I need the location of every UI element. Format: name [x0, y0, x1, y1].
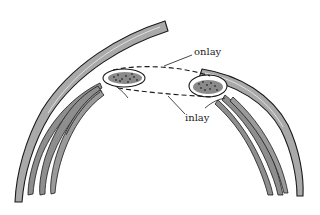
onlay-label: onlay — [194, 47, 221, 57]
left-graft-oval — [103, 69, 145, 87]
right-graft-oval — [189, 75, 227, 97]
anatomical-diagram — [0, 0, 320, 215]
inlay-label: inlay — [185, 113, 209, 123]
left-muscle-bundle — [28, 82, 128, 195]
inlay-leader-line — [168, 96, 185, 114]
left-bone-arc — [15, 21, 168, 202]
onlay-leader-line — [164, 55, 192, 66]
